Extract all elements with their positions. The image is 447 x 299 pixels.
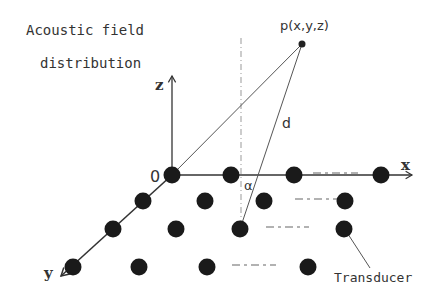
transducer-element <box>199 259 216 276</box>
field-point-p <box>299 41 306 48</box>
origin-label: 0 <box>150 167 160 186</box>
transducer-element <box>286 167 303 184</box>
z-axis-label: z <box>155 76 164 94</box>
transducer-element <box>337 193 354 210</box>
transducer-label: Transducer <box>334 270 412 285</box>
transducer-element <box>300 259 317 276</box>
transducer-element <box>105 221 122 238</box>
title-line-1: Acoustic field <box>26 22 144 38</box>
distance-label: d <box>282 115 291 131</box>
title-line-2: distribution <box>40 55 141 71</box>
transducer-pointer <box>346 231 370 268</box>
point-p-label: p(x,y,z) <box>280 18 329 33</box>
transducer-element <box>373 167 390 184</box>
acoustic-field-diagram: Acoustic field distribution p(x,y,z) d 0… <box>0 0 447 299</box>
transducer-element <box>232 221 249 238</box>
angle-label: α <box>244 178 253 193</box>
transducer-element <box>197 193 214 210</box>
origin-to-p-line <box>172 44 302 175</box>
transducer-element <box>168 221 185 238</box>
transducer-element <box>223 167 240 184</box>
transducer-array <box>65 167 390 276</box>
transducer-element <box>65 259 82 276</box>
y-axis-label: y <box>43 264 54 282</box>
transducer-element <box>131 259 148 276</box>
transducer-element <box>135 193 152 210</box>
x-axis-label: x <box>401 156 411 174</box>
transducer-element <box>256 193 273 210</box>
transducer-element <box>164 167 181 184</box>
transducer-element <box>336 221 353 238</box>
